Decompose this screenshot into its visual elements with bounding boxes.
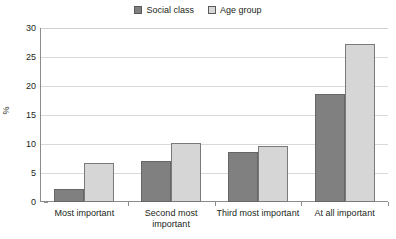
bar bbox=[345, 44, 375, 202]
legend-entry-social-class: Social class bbox=[134, 5, 194, 15]
x-tick-mark bbox=[215, 202, 216, 206]
y-tick-label-30: 30 bbox=[14, 24, 36, 33]
bar bbox=[171, 143, 201, 202]
x-axis-label: Most important bbox=[41, 208, 128, 219]
y-axis-ticks: 302520151050 bbox=[8, 28, 36, 202]
bar bbox=[141, 161, 171, 202]
bar-group bbox=[215, 28, 302, 202]
bar bbox=[315, 94, 345, 202]
x-axis-label: Third most important bbox=[215, 208, 302, 219]
bar bbox=[84, 163, 114, 202]
y-tick-label-25: 25 bbox=[14, 53, 36, 62]
chart-legend: Social class Age group bbox=[0, 2, 396, 18]
bar bbox=[54, 189, 84, 202]
legend-label-age-group: Age group bbox=[220, 5, 262, 15]
x-tick-mark bbox=[128, 202, 129, 206]
legend-label-social-class: Social class bbox=[146, 5, 194, 15]
y-tick-label-15: 15 bbox=[14, 111, 36, 120]
bar-group bbox=[128, 28, 215, 202]
bar-group bbox=[301, 28, 388, 202]
y-tick-label-5: 5 bbox=[14, 169, 36, 178]
x-axis-label: At all important bbox=[301, 208, 388, 219]
bar bbox=[228, 152, 258, 202]
x-tick-mark bbox=[301, 202, 302, 206]
legend-swatch-age-group-icon bbox=[208, 6, 216, 14]
legend-swatch-social-class-icon bbox=[134, 6, 142, 14]
y-tick-label-0: 0 bbox=[14, 198, 36, 207]
y-tick-label-10: 10 bbox=[14, 140, 36, 149]
x-axis-labels: Most importantSecond most importantThird… bbox=[41, 208, 388, 239]
y-tick-label-20: 20 bbox=[14, 82, 36, 91]
y-tick-mark-0 bbox=[44, 202, 48, 203]
legend-entry-age-group: Age group bbox=[208, 5, 262, 15]
bar-group bbox=[41, 28, 128, 202]
x-tick-mark bbox=[388, 202, 389, 206]
bars-layer bbox=[41, 28, 388, 202]
x-axis-label: Second most important bbox=[128, 208, 215, 230]
bar bbox=[258, 146, 288, 202]
bar-chart: Social class Age group % 302520151050 Mo… bbox=[0, 0, 396, 239]
